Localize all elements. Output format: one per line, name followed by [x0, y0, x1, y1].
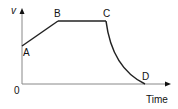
y-axis-label: v [11, 6, 16, 16]
segment-a-b [22, 21, 58, 46]
x-axis-label: Time [146, 95, 168, 105]
point-b-label: B [54, 9, 61, 19]
point-d-label: D [142, 72, 149, 82]
point-a-label: A [23, 48, 30, 58]
y-axis-arrow-icon [20, 8, 25, 14]
point-c-label: C [103, 9, 110, 19]
origin-label: 0 [14, 86, 20, 96]
segment-c-d [106, 21, 145, 84]
x-axis-arrow-icon [165, 82, 171, 87]
